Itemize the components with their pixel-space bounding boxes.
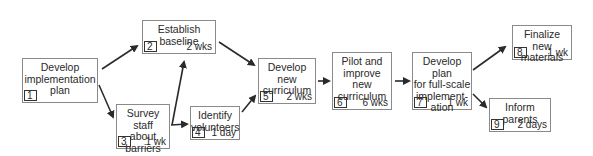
activity-node-8[interactable]: Finalize new materials 8 1 wk — [512, 25, 572, 60]
activity-node-1[interactable]: Develop implementation plan 1 — [22, 58, 98, 103]
activity-duration: 1 day — [212, 127, 236, 138]
activity-number: 6 — [334, 97, 347, 108]
arrow-1-to-3 — [99, 85, 113, 117]
arrow-7-to-9 — [473, 94, 486, 107]
arrow-7-to-8 — [473, 47, 505, 70]
activity-number: 1 — [24, 90, 37, 101]
activity-label: Survey staff about barriers — [117, 108, 169, 154]
activity-number: 7 — [414, 97, 427, 108]
activity-duration: 1 wk — [447, 97, 468, 108]
activity-node-9[interactable]: Inform parents 9 2 days — [489, 98, 551, 132]
activity-node-2[interactable]: Establish baseline 2 2 wks — [142, 20, 216, 54]
activity-node-4[interactable]: Identify volunteers 4 1 day — [190, 106, 240, 140]
activity-number: 4 — [192, 127, 205, 138]
activity-node-6[interactable]: Pilot and improve new curriculum 6 6 wks — [332, 52, 392, 110]
activity-duration: 6 wks — [362, 97, 388, 108]
activity-number: 3 — [118, 136, 131, 147]
activity-duration: 2 wks — [286, 91, 312, 102]
activity-label: Pilot and improve new curriculum — [333, 56, 391, 102]
activity-duration: 1 wk — [145, 136, 166, 147]
activity-duration: 2 wks — [186, 41, 212, 52]
arrow-3-to-4 — [171, 124, 187, 125]
activity-number: 9 — [491, 119, 504, 130]
activity-node-5[interactable]: Develop new curriculum 5 2 wks — [258, 58, 316, 104]
arrow-3-to-2 — [172, 62, 184, 125]
activity-duration: 2 days — [518, 119, 547, 130]
activity-number: 2 — [144, 41, 157, 52]
activity-number: 8 — [514, 47, 527, 58]
arrow-4-to-5 — [242, 96, 255, 112]
arrow-2-to-5 — [219, 42, 254, 65]
activity-node-7[interactable]: Develop plan for full-scale implement- a… — [412, 52, 472, 110]
arrow-1-to-2 — [102, 46, 137, 69]
activity-number: 5 — [260, 91, 273, 102]
activity-duration: 1 wk — [547, 47, 568, 58]
activity-node-3[interactable]: Survey staff about barriers 3 1 wk — [116, 104, 170, 149]
